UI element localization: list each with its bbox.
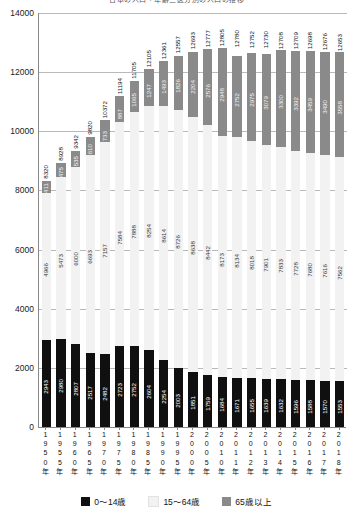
bar-label-elderly: 733 bbox=[102, 131, 108, 141]
bar-label-total: 11194 bbox=[117, 78, 123, 94]
bar-label-working: 8173 bbox=[219, 253, 225, 267]
x-axis-tickmark bbox=[148, 427, 149, 430]
bar-column[interactable]: 251766936109820 bbox=[86, 137, 95, 427]
bar-label-working: 7157 bbox=[102, 244, 108, 258]
x-axis-tick: 2016年 bbox=[302, 430, 317, 476]
x-axis-tickmark bbox=[192, 427, 193, 430]
bar-column[interactable]: 27527888106511705 bbox=[130, 81, 139, 427]
x-axis-tick: 2012年 bbox=[243, 430, 258, 476]
bar-label-total: 12676 bbox=[322, 33, 328, 50]
bar-column[interactable]: 16397901307912730 bbox=[262, 51, 271, 427]
bar-label-young: 2517 bbox=[87, 386, 93, 400]
x-axis-tick-labels: 1950年1955年1960年1965年1970年1975年1980年1985年… bbox=[38, 430, 346, 486]
bar-label-working: 7584 bbox=[117, 231, 123, 245]
bar-column[interactable]: 15967728339212709 bbox=[291, 51, 300, 427]
x-axis-tick: 1960年 bbox=[67, 430, 82, 476]
bar-column[interactable]: 16558018297512752 bbox=[247, 50, 256, 427]
x-axis-tick: 2010年 bbox=[214, 430, 229, 476]
bar-label-young: 1632 bbox=[278, 399, 284, 413]
x-axis-tickmark bbox=[119, 427, 120, 430]
bar-label-total: 12361 bbox=[161, 42, 167, 59]
bar-label-elderly: 3459 bbox=[307, 98, 313, 112]
x-axis-tickmark bbox=[324, 427, 325, 430]
legend-item-label: 0〜14歳 bbox=[94, 495, 126, 507]
bar-label-elderly: 1065 bbox=[131, 93, 137, 107]
x-axis-tick: 1950年 bbox=[38, 430, 53, 476]
bar-column[interactable]: 22548614149312361 bbox=[159, 61, 168, 427]
legend-item[interactable]: 0〜14歳 bbox=[81, 495, 126, 507]
legend-item[interactable]: 65歳以上 bbox=[222, 495, 271, 507]
x-axis-tick: 1975年 bbox=[111, 430, 126, 476]
bar-series-group: 2943496641183202980547347589282807600053… bbox=[39, 13, 347, 427]
bar-label-total: 12730 bbox=[263, 31, 269, 48]
bar-label-young: 2482 bbox=[102, 387, 108, 401]
bar-column[interactable]: 17598442257612777 bbox=[203, 49, 212, 427]
bar-column[interactable]: 18518638220412693 bbox=[188, 52, 197, 427]
x-axis-tick: 2018年 bbox=[331, 430, 346, 476]
bar-label-young: 1596 bbox=[293, 400, 299, 414]
population-stacked-bar-chart: 日本の人口・年齢三区分別の人口の推移 020004000600080001000… bbox=[0, 0, 353, 516]
x-axis-tick: 1980年 bbox=[126, 430, 141, 476]
bar-column[interactable]: 15887680345912698 bbox=[306, 52, 315, 427]
plot-area: 2943496641183202980547347589282807600053… bbox=[38, 13, 346, 428]
bar-column[interactable]: 16327833330012708 bbox=[276, 51, 285, 427]
chart-legend: 0〜14歳15〜64歳65歳以上 bbox=[0, 492, 353, 510]
legend-swatch-young-icon bbox=[81, 497, 90, 506]
bar-label-total: 10372 bbox=[102, 101, 108, 118]
bar-label-working: 7728 bbox=[293, 262, 299, 276]
x-axis-tick: 1995年 bbox=[170, 430, 185, 476]
bar-label-working: 8442 bbox=[205, 246, 211, 260]
bar-label-total: 9820 bbox=[87, 121, 93, 135]
bar-label-total: 12698 bbox=[307, 32, 313, 49]
bar-label-elderly: 2975 bbox=[249, 93, 255, 107]
bar-label-elderly: 3558 bbox=[337, 101, 343, 115]
x-axis-tickmark bbox=[295, 427, 296, 430]
y-axis-tick: 14000 bbox=[0, 9, 34, 18]
bar-label-working: 8638 bbox=[190, 241, 196, 255]
bar-label-young: 2723 bbox=[117, 383, 123, 397]
x-axis-tickmark bbox=[177, 427, 178, 430]
x-axis-tick: 1970年 bbox=[97, 430, 112, 476]
bar-label-young: 1851 bbox=[190, 396, 196, 410]
bar-label-young: 2604 bbox=[146, 385, 152, 399]
bar-label-young: 1684 bbox=[219, 398, 225, 412]
bar-label-elderly: 887 bbox=[117, 109, 123, 119]
bar-column[interactable]: 298054734758928 bbox=[56, 163, 65, 427]
x-axis-tickmark bbox=[265, 427, 266, 430]
bar-label-total: 9342 bbox=[73, 135, 79, 149]
legend-item[interactable]: 15〜64歳 bbox=[148, 495, 200, 507]
x-axis-tickmark bbox=[163, 427, 164, 430]
x-axis-tickmark bbox=[236, 427, 237, 430]
bar-column[interactable]: 16718134275212780 bbox=[232, 49, 241, 427]
bar-column[interactable]: 294349664118320 bbox=[42, 181, 51, 427]
bar-column[interactable]: 26048254124712105 bbox=[144, 69, 153, 427]
bar-column[interactable]: 280760005359342 bbox=[71, 151, 80, 427]
bar-label-total: 12805 bbox=[219, 29, 225, 46]
bar-label-working: 7888 bbox=[131, 225, 137, 239]
bar-label-working: 6693 bbox=[87, 250, 93, 264]
y-axis-tick: 8000 bbox=[0, 186, 34, 195]
bar-label-total: 8320 bbox=[43, 165, 49, 179]
bar-label-working: 8254 bbox=[146, 224, 152, 238]
bar-label-elderly: 3490 bbox=[322, 100, 328, 114]
bar-column[interactable]: 2482715773310372 bbox=[100, 120, 109, 427]
bar-label-working: 8726 bbox=[175, 235, 181, 249]
bar-column[interactable]: 15707616349012676 bbox=[320, 52, 329, 427]
bar-label-young: 2807 bbox=[73, 382, 79, 396]
bar-column[interactable]: 20038726182612557 bbox=[174, 56, 183, 427]
x-axis-tickmark bbox=[221, 427, 222, 430]
bar-label-elderly: 3392 bbox=[293, 97, 299, 111]
bar-column[interactable]: 16848173294812805 bbox=[218, 48, 227, 427]
bar-label-total: 12777 bbox=[205, 30, 211, 47]
bar-label-working: 7680 bbox=[307, 263, 313, 277]
x-axis-tickmark bbox=[309, 427, 310, 430]
bar-label-young: 2003 bbox=[175, 394, 181, 408]
x-axis-tickmark bbox=[251, 427, 252, 430]
bar-column[interactable]: 2723758488711194 bbox=[115, 96, 124, 427]
bar-label-working: 7616 bbox=[322, 264, 328, 278]
x-axis-tickmark bbox=[339, 427, 340, 430]
bar-column[interactable]: 15537562355812653 bbox=[335, 53, 344, 427]
bar-label-young: 1671 bbox=[234, 399, 240, 413]
x-axis-tickmark bbox=[45, 427, 46, 430]
bar-label-young: 1759 bbox=[205, 397, 211, 411]
